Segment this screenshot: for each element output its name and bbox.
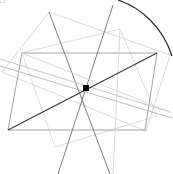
center-point-marker xyxy=(83,85,89,91)
figure-canvas: □ xyxy=(0,0,173,174)
diagonal-faint-left xyxy=(22,53,170,112)
main-dark-diagonal xyxy=(8,53,157,130)
corner-glyph-icon: □ xyxy=(0,0,9,5)
arc-upper-right xyxy=(118,0,172,56)
geometric-line-drawing xyxy=(0,0,173,174)
outer-quad-light xyxy=(2,12,170,131)
